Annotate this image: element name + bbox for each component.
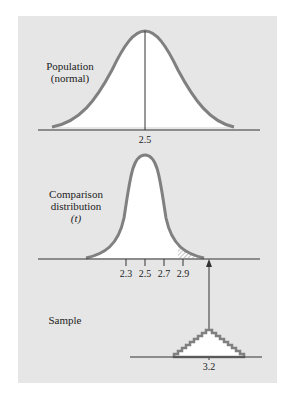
population-mean-label: 2.5 — [133, 134, 157, 145]
comparison-label: Comparison distribution (t) — [36, 188, 116, 224]
sample-mean-label: 3.2 — [197, 361, 221, 372]
population-label: Population (normal) — [30, 60, 110, 84]
tick-2-9: 2.9 — [171, 268, 195, 279]
sample-histogram — [130, 330, 262, 357]
sample-label: Sample — [40, 314, 90, 326]
